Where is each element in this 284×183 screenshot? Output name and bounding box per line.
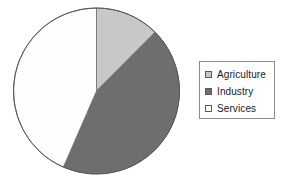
- legend-label-industry: Industry: [217, 86, 253, 97]
- legend-item-industry[interactable]: Industry: [205, 83, 274, 99]
- legend-swatch-services: [205, 105, 212, 112]
- chart-legend: Agriculture Industry Services: [199, 61, 275, 119]
- pie-chart-svg: [0, 0, 190, 183]
- legend-label-agriculture: Agriculture: [217, 69, 266, 80]
- pie-chart-plot-area: [0, 0, 190, 183]
- legend-item-services[interactable]: Services: [205, 100, 274, 116]
- pie-chart-screenshot: Agriculture Industry Services: [0, 0, 284, 183]
- pie-slice-group: [13, 8, 179, 174]
- legend-label-services: Services: [217, 103, 256, 114]
- legend-swatch-agriculture: [205, 71, 212, 78]
- legend-swatch-industry: [205, 88, 212, 95]
- legend-item-agriculture[interactable]: Agriculture: [205, 66, 274, 82]
